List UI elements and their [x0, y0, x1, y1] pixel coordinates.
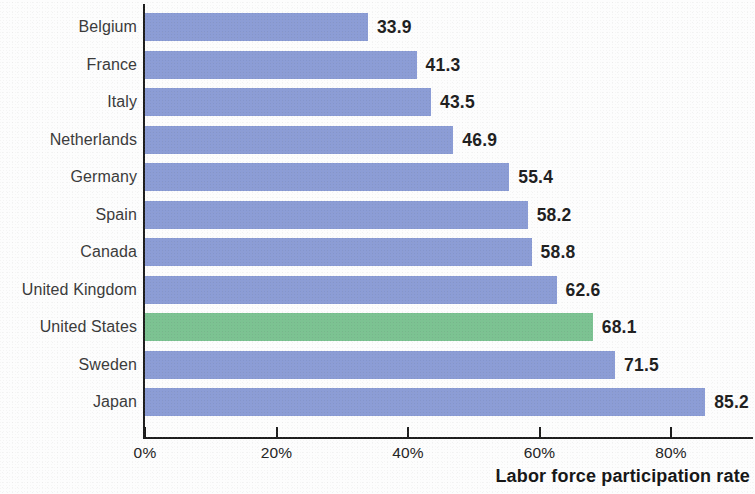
bar-row: United States68.1	[0, 313, 755, 341]
bar-belgium	[145, 13, 368, 41]
x-axis-tick	[407, 427, 409, 438]
x-axis-tick	[539, 427, 541, 438]
bar-spain	[145, 201, 528, 229]
bar-netherlands	[145, 126, 453, 154]
value-label-canada: 58.8	[541, 238, 576, 266]
value-label-united-kingdom: 62.6	[566, 276, 601, 304]
category-label-united-kingdom: United Kingdom	[0, 276, 137, 304]
x-axis-tick-label: 80%	[631, 444, 711, 462]
x-axis-tick-label: 20%	[237, 444, 317, 462]
bar-japan	[145, 388, 705, 416]
x-axis-tick-label: 40%	[368, 444, 448, 462]
category-label-sweden: Sweden	[0, 351, 137, 379]
bar-row: Spain58.2	[0, 201, 755, 229]
category-label-united-states: United States	[0, 313, 137, 341]
bar-united-kingdom	[145, 276, 557, 304]
bar-row: Sweden71.5	[0, 351, 755, 379]
x-axis-tick	[276, 427, 278, 438]
x-axis-tick	[144, 427, 146, 438]
x-axis-title: Labor force participation rate	[495, 466, 750, 487]
bar-sweden	[145, 351, 615, 379]
value-label-italy: 43.5	[440, 88, 475, 116]
category-label-belgium: Belgium	[0, 13, 137, 41]
value-label-netherlands: 46.9	[462, 126, 497, 154]
value-label-united-states: 68.1	[602, 313, 637, 341]
bar-united-states	[145, 313, 593, 341]
category-label-france: France	[0, 51, 137, 79]
bar-italy	[145, 88, 431, 116]
bar-row: Japan85.2	[0, 388, 755, 416]
chart-page: 0%20%40%60%80% Belgium33.9France41.3Ital…	[0, 0, 755, 494]
bar-france	[145, 51, 417, 79]
value-label-france: 41.3	[426, 51, 461, 79]
x-axis-tick	[670, 427, 672, 438]
bar-row: Netherlands46.9	[0, 126, 755, 154]
bar-canada	[145, 238, 532, 266]
x-axis-line	[143, 437, 753, 439]
value-label-spain: 58.2	[537, 201, 572, 229]
x-axis-tick-label: 0%	[105, 444, 185, 462]
category-label-canada: Canada	[0, 238, 137, 266]
value-label-japan: 85.2	[714, 388, 749, 416]
bar-row: Italy43.5	[0, 88, 755, 116]
category-label-germany: Germany	[0, 163, 137, 191]
bar-row: Germany55.4	[0, 163, 755, 191]
bar-row: Belgium33.9	[0, 13, 755, 41]
value-label-belgium: 33.9	[377, 13, 412, 41]
bar-row: France41.3	[0, 51, 755, 79]
x-axis-tick-label: 60%	[500, 444, 580, 462]
value-label-sweden: 71.5	[624, 351, 659, 379]
bar-germany	[145, 163, 509, 191]
category-label-japan: Japan	[0, 388, 137, 416]
category-label-spain: Spain	[0, 201, 137, 229]
bar-row: Canada58.8	[0, 238, 755, 266]
category-label-italy: Italy	[0, 88, 137, 116]
bar-row: United Kingdom62.6	[0, 276, 755, 304]
bar-chart-plot-area: 0%20%40%60%80% Belgium33.9France41.3Ital…	[0, 0, 755, 494]
value-label-germany: 55.4	[518, 163, 553, 191]
category-label-netherlands: Netherlands	[0, 126, 137, 154]
